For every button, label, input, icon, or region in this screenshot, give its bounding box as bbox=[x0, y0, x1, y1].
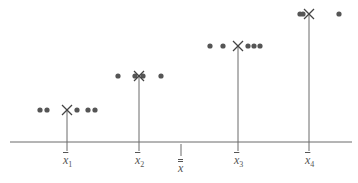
data-point bbox=[158, 73, 163, 78]
grand-mean-label: x bbox=[178, 159, 183, 174]
data-point bbox=[220, 43, 225, 48]
data-point bbox=[85, 107, 90, 112]
data-point bbox=[207, 43, 212, 48]
data-point bbox=[44, 107, 49, 112]
group-mean-label-3: x3 bbox=[234, 154, 243, 169]
data-point bbox=[74, 107, 79, 112]
data-point bbox=[245, 43, 250, 48]
data-point bbox=[92, 107, 97, 112]
data-point bbox=[257, 43, 262, 48]
group-mean-label-1: x1 bbox=[63, 154, 72, 169]
data-point bbox=[37, 107, 42, 112]
group-mean-label-4: x4 bbox=[305, 154, 314, 169]
group-mean-label-2: x2 bbox=[135, 154, 144, 169]
data-point bbox=[115, 73, 120, 78]
data-point bbox=[300, 11, 305, 16]
data-point bbox=[251, 43, 256, 48]
data-point bbox=[336, 11, 341, 16]
